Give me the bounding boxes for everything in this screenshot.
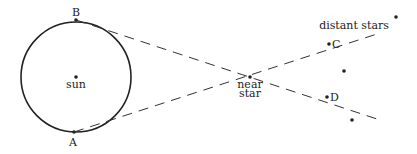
label-a: A xyxy=(68,136,78,149)
distant-star-dot xyxy=(394,15,398,19)
distant-star-dot xyxy=(342,69,346,73)
label-d: D xyxy=(330,91,339,104)
sightline-b xyxy=(76,20,377,119)
star-d-dot xyxy=(325,95,329,99)
label-c: C xyxy=(332,38,340,51)
star-c-dot xyxy=(327,42,331,46)
sun-label: sun xyxy=(66,78,86,91)
label-b: B xyxy=(72,6,80,19)
near-star-label-2: star xyxy=(239,87,262,100)
parallax-diagram: sun B A near star distant stars C D xyxy=(0,0,417,154)
distant-star-dot xyxy=(350,118,354,122)
distant-stars-label: distant stars xyxy=(319,19,389,32)
